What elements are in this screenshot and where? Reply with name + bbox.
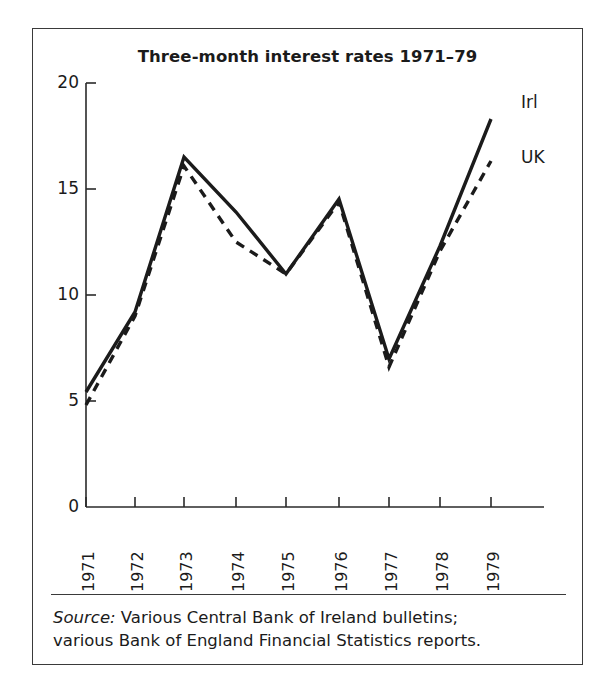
series-line-irl	[86, 119, 491, 392]
x-axis-ticks	[86, 497, 491, 507]
plot-svg	[33, 29, 584, 666]
source-note: Source: Various Central Bank of Ireland …	[53, 606, 568, 653]
source-line-2: various Bank of England Financial Statis…	[53, 631, 481, 650]
series-line-uk	[86, 161, 491, 405]
source-line-1: Various Central Bank of Ireland bulletin…	[116, 608, 459, 627]
figure-frame: Three-month interest rates 1971–79 20 15…	[32, 28, 583, 665]
y-axis-ticks	[86, 83, 96, 401]
source-label: Source:	[53, 608, 116, 627]
source-divider	[51, 594, 566, 595]
plot-area: 20 15 10 5 0 1971 1972 1973 1974 1975 19…	[33, 29, 584, 666]
